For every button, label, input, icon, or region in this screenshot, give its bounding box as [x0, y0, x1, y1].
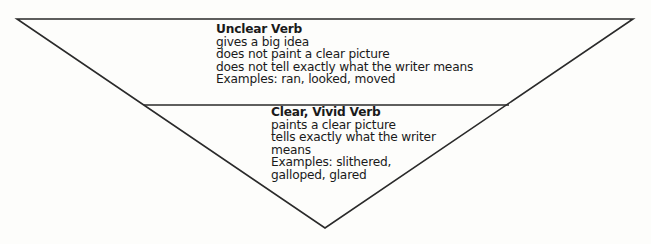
section-line: galloped, glared: [271, 169, 436, 182]
section-line: does not paint a clear picture: [216, 48, 473, 61]
unclear-verb-section: Unclear Verb gives a big idea does not p…: [216, 23, 473, 86]
clear-vivid-verb-section: Clear, Vivid Verb paints a clear picture…: [271, 106, 436, 182]
section-line: tells exactly what the writer: [271, 131, 436, 144]
section-line: Examples: ran, looked, moved: [216, 73, 473, 86]
section-title: Clear, Vivid Verb: [271, 106, 436, 119]
section-title: Unclear Verb: [216, 23, 473, 36]
